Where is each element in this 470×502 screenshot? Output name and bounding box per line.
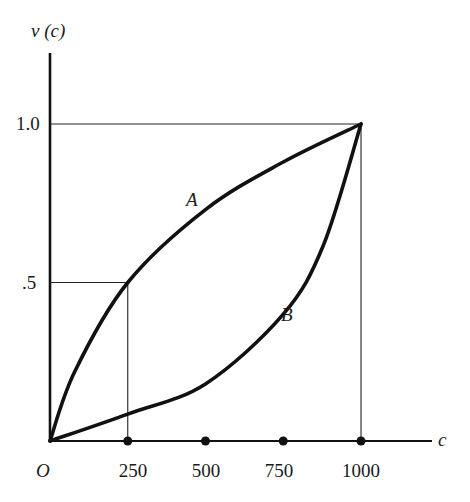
origin-label: O	[36, 460, 50, 481]
x-axis-label: c	[438, 429, 447, 450]
y-tick-label-1: 1.0	[16, 113, 40, 134]
utility-chart: v (c) c O 1.0 .5 250 500 750 1000 A B	[0, 0, 470, 502]
x-tick-label-250: 250	[119, 460, 148, 481]
reference-guides	[50, 124, 361, 441]
x-tick-dot	[279, 437, 288, 446]
curve-a-label: A	[184, 189, 198, 210]
x-tick-label-750: 750	[265, 460, 294, 481]
curve-b-label: B	[281, 304, 293, 325]
x-tick-label-1000: 1000	[342, 460, 380, 481]
x-tick-label-500: 500	[192, 460, 221, 481]
x-tick-dot	[357, 437, 366, 446]
x-tick-dot	[123, 437, 132, 446]
y-axis-label: v (c)	[31, 20, 65, 42]
x-tick-dot	[201, 437, 210, 446]
y-tick-label-half: .5	[22, 272, 36, 293]
